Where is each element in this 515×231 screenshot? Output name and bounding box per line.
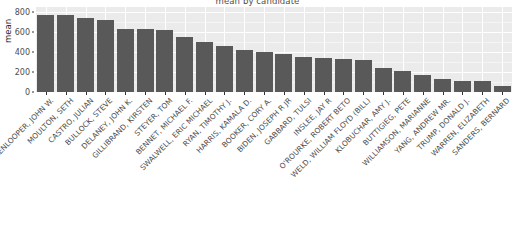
bar: [295, 57, 312, 93]
y-tick-mark: [32, 12, 35, 13]
x-tick-mark: [145, 92, 146, 95]
bar-chart: mean by candidate mean 0200400600800 HIC…: [0, 0, 515, 231]
x-tick-mark: [324, 92, 325, 95]
x-axis-labels: HICKENLOOPER, JOHN W.MOULTON, SETHCASTRO…: [36, 96, 512, 231]
chart-title: mean by candidate: [0, 0, 515, 6]
x-tick-mark: [462, 92, 463, 95]
bar: [275, 54, 292, 93]
x-tick-mark: [125, 92, 126, 95]
x-tick-mark: [482, 92, 483, 95]
y-tick-mark: [32, 92, 35, 93]
x-tick-mark: [383, 92, 384, 95]
y-tick-label: 400: [15, 48, 30, 57]
y-tick-mark: [32, 52, 35, 53]
bar: [37, 15, 54, 93]
y-tick-mark: [32, 32, 35, 33]
x-tick-mark: [224, 92, 225, 95]
y-tick-label: 800: [15, 8, 30, 17]
bars-layer: [36, 7, 512, 92]
bar: [434, 79, 451, 93]
x-tick-mark: [304, 92, 305, 95]
bar: [335, 59, 352, 92]
x-tick-mark: [185, 92, 186, 95]
x-tick-mark: [244, 92, 245, 95]
x-tick-label: HICKENLOOPER, JOHN W.: [0, 96, 55, 169]
x-tick-mark: [423, 92, 424, 95]
bar: [216, 46, 233, 92]
bar: [256, 52, 273, 92]
x-tick-mark: [105, 92, 106, 95]
x-tick-mark: [205, 92, 206, 95]
bar: [315, 58, 332, 92]
bar: [454, 81, 471, 93]
bar: [236, 50, 253, 93]
y-tick-mark: [32, 72, 35, 73]
bar: [97, 20, 114, 93]
bar: [137, 29, 154, 92]
bar: [156, 30, 173, 92]
y-tick-label: 0: [25, 88, 30, 97]
y-tick-label: 200: [15, 68, 30, 77]
bar: [196, 42, 213, 93]
bar: [117, 29, 134, 92]
bar: [375, 68, 392, 92]
x-tick-mark: [343, 92, 344, 95]
bar: [394, 71, 411, 93]
y-tick-label: 600: [15, 28, 30, 37]
x-tick-mark: [443, 92, 444, 95]
x-tick-mark: [363, 92, 364, 95]
bar: [176, 37, 193, 92]
bar: [355, 60, 372, 93]
x-tick-mark: [403, 92, 404, 95]
x-tick-mark: [165, 92, 166, 95]
bar: [414, 75, 431, 93]
x-tick-mark: [264, 92, 265, 95]
bar: [57, 15, 74, 92]
y-axis-ticks: 0200400600800: [12, 12, 34, 92]
plot-panel: [36, 7, 512, 92]
x-tick-mark: [46, 92, 47, 95]
bar: [77, 18, 94, 92]
x-tick-mark: [502, 92, 503, 95]
x-tick-mark: [86, 92, 87, 95]
x-tick-mark: [66, 92, 67, 95]
x-tick-mark: [284, 92, 285, 95]
bar: [474, 81, 491, 92]
